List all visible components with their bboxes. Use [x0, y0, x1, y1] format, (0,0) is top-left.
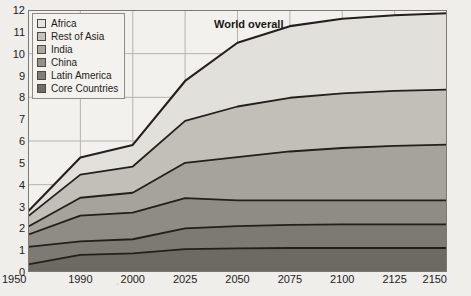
y-tick-label: 1: [3, 245, 25, 256]
y-tick-label: 4: [3, 179, 25, 190]
x-tick-label: 2050: [225, 274, 249, 285]
legend-swatch-icon: [37, 71, 46, 80]
y-tick-label: 6: [3, 136, 25, 147]
x-tick-label: 2025: [173, 274, 197, 285]
legend-item: Rest of Asia: [37, 30, 120, 43]
y-tick-label: 8: [3, 92, 25, 103]
y-tick-label: 11: [3, 26, 25, 37]
legend-item: Core Countries: [37, 82, 120, 95]
legend-swatch-icon: [37, 58, 46, 67]
y-tick-label: 12: [3, 5, 25, 16]
y-tick-label: 10: [3, 48, 25, 59]
legend-item-label: Africa: [51, 19, 77, 29]
x-tick-label: 1950: [2, 274, 26, 285]
legend-swatch-icon: [37, 45, 46, 54]
y-tick-label: 5: [3, 157, 25, 168]
x-tick-label: 1990: [68, 274, 92, 285]
legend-item-label: China: [51, 58, 77, 68]
x-axis: 195019902000202520502075210021252150: [0, 274, 471, 290]
legend-item-label: Rest of Asia: [51, 32, 104, 42]
y-tick-label: 2: [3, 223, 25, 234]
world-overall-annotation: World overall: [214, 18, 283, 30]
y-tick-label: 3: [3, 201, 25, 212]
legend-swatch-icon: [37, 32, 46, 41]
legend-item: Africa: [37, 17, 120, 30]
x-tick-label: 2000: [121, 274, 145, 285]
legend-item-label: Latin America: [51, 71, 112, 81]
legend-swatch-icon: [37, 19, 46, 28]
legend-item-label: Core Countries: [51, 84, 118, 94]
legend-item-label: India: [51, 45, 73, 55]
legend-item: China: [37, 56, 120, 69]
legend-item: India: [37, 43, 120, 56]
y-tick-label: 9: [3, 70, 25, 81]
legend-swatch-icon: [37, 84, 46, 93]
y-tick-label: 7: [3, 114, 25, 125]
y-axis: 0123456789101112: [0, 0, 25, 296]
legend: AfricaRest of AsiaIndiaChinaLatin Americ…: [32, 13, 125, 99]
x-tick-label: 2150: [423, 274, 447, 285]
x-tick-label: 2125: [382, 274, 406, 285]
chart-screenshot: 0123456789101112 19501990200020252050207…: [0, 0, 471, 296]
x-tick-label: 2075: [278, 274, 302, 285]
legend-item: Latin America: [37, 69, 120, 82]
x-tick-label: 2100: [330, 274, 354, 285]
